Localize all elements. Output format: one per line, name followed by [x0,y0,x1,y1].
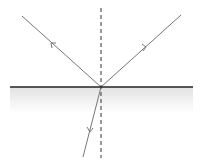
refraction-diagram [0,0,200,163]
reflected-ray [22,16,101,87]
incident-ray [101,15,181,87]
